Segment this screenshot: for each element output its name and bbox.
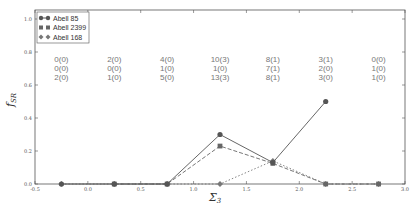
diamond-marker-icon [217,181,223,187]
count-annotation: 2(0) [54,73,69,82]
plot-frame [35,10,405,184]
chart: -0.50.00.51.01.52.02.53.0 0.00.20.40.60.… [0,0,419,210]
count-annotation: 10(3) [211,55,230,64]
legend-label: Abell 168 [53,34,82,41]
x-tick-label: 1.5 [242,186,250,192]
square-marker-icon [218,144,223,149]
y-axis-label: fSR [4,92,18,108]
series-abell-168 [58,158,381,187]
y-tick-label: 0.6 [24,82,32,88]
count-annotation: 1(0) [107,73,122,82]
x-axis-label: Σ3 [208,191,222,205]
count-annotation: 5(0) [160,73,175,82]
count-annotation: 8(1) [266,73,281,82]
count-annotation: 0(0) [371,55,386,64]
count-annotation: 0(0) [54,55,69,64]
y-tick-label: 0.0 [24,181,32,187]
count-annotation: 3(1) [319,55,334,64]
square-marker-icon [376,182,381,187]
count-annotation: 2(0) [107,55,122,64]
x-tick-label: 3.0 [401,186,409,192]
legend-label: Abell 2399 [53,24,86,31]
square-marker-icon [39,26,43,30]
series-abell-85 [59,99,328,187]
y-tick-label: 0.2 [24,148,32,154]
x-tick-label: 0.0 [84,186,92,192]
circle-marker-icon [323,99,328,104]
count-annotations: 0(0)0(0)2(0)2(0)0(0)1(0)4(0)1(0)5(0)10(3… [54,55,386,82]
x-tick-label: 0.5 [137,186,145,192]
circle-marker-icon [39,16,43,20]
circle-marker-icon [217,132,222,137]
circle-marker-icon [112,181,117,186]
circle-marker-icon [59,181,64,186]
legend-label: Abell 85 [53,15,78,22]
y-tick-label: 0.8 [24,49,32,55]
count-annotation: 4(0) [160,55,175,64]
y-tick-label: 1.0 [24,16,32,22]
svg-text:Σ3: Σ3 [208,191,222,205]
count-annotation: 8(1) [266,55,281,64]
data-series [58,99,381,187]
count-annotation: 1(0) [371,64,386,73]
circle-marker-icon [46,16,50,20]
square-marker-icon [323,182,328,187]
count-annotation: 13(3) [211,73,230,82]
legend: Abell 85 Abell 2399 Abell 168 [37,12,89,43]
count-annotation: 7(1) [266,64,281,73]
series-abell-2399 [112,144,381,187]
square-marker-icon [46,26,50,30]
y-tick-label: 0.4 [24,115,32,121]
svg-text:fSR: fSR [4,92,18,108]
x-tick-label: 2.5 [348,186,356,192]
count-annotation: 1(0) [371,73,386,82]
circle-marker-icon [165,181,170,186]
count-annotation: 3(0) [319,73,334,82]
count-annotation: 0(0) [107,64,122,73]
count-annotation: 2(0) [319,64,334,73]
count-annotation: 1(0) [213,64,228,73]
count-annotation: 1(0) [160,64,175,73]
x-tick-label: 2.0 [295,186,303,192]
count-annotation: 0(0) [54,64,69,73]
x-tick-label: 1.0 [190,186,198,192]
circle-marker-icon [270,160,275,165]
